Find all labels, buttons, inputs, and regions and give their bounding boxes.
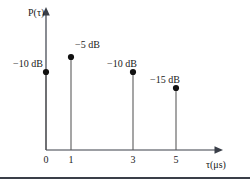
x-tick-label-1: 1 [61,155,81,165]
bottom-divider [0,177,250,179]
x-axis-arrowhead [215,146,224,154]
stem-marker-1 [68,54,74,60]
stem-marker-0 [43,69,49,75]
x-tick-label-2: 3 [123,155,143,165]
data-label-2: −10 dB [107,59,137,69]
data-label-0: −10 dB [13,59,43,69]
x-axis-label: τ(μs) [206,160,226,170]
power-delay-profile-figure: P(τ) τ(μs) −10 dB −5 dB −10 dB −15 dB 0 … [0,0,250,183]
x-tick-label-3: 5 [166,155,186,165]
data-label-3: −15 dB [150,75,180,85]
stem-marker-2 [130,69,136,75]
y-axis-label: P(τ) [28,8,44,18]
data-label-1: −5 dB [75,40,100,50]
plot-area: P(τ) τ(μs) −10 dB −5 dB −10 dB −15 dB 0 … [0,0,250,183]
stem-marker-3 [173,85,179,91]
x-tick-label-0: 0 [36,155,56,165]
